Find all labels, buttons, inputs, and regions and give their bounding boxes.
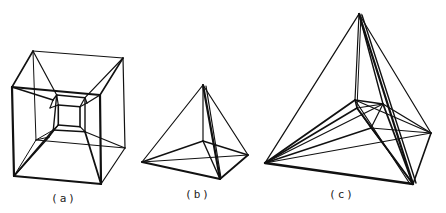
edge-line <box>33 51 123 58</box>
edge-line <box>265 128 371 163</box>
edge-line <box>85 132 125 148</box>
edge-line <box>265 163 413 184</box>
edge-line <box>220 155 248 179</box>
edge-line <box>383 104 413 184</box>
edge-line <box>36 140 125 148</box>
edge-line <box>101 148 125 184</box>
edge-line <box>265 100 355 163</box>
edge-line <box>383 104 431 133</box>
edge-line <box>100 95 101 184</box>
edge-line <box>355 100 410 184</box>
edge-line <box>142 162 220 179</box>
edge-line <box>362 15 416 183</box>
edge-line <box>265 14 359 163</box>
caption-a: (a) <box>51 192 77 205</box>
edge-line <box>359 14 413 184</box>
edge-line <box>142 85 203 162</box>
caption-b: (b) <box>185 188 211 201</box>
edge-line <box>14 137 49 176</box>
edge-line <box>14 140 36 176</box>
edge-line <box>58 125 80 127</box>
edge-line <box>33 51 36 140</box>
edge-line <box>57 95 59 105</box>
caption-c: (c) <box>329 188 355 201</box>
edge-line <box>53 130 85 132</box>
edge-line <box>85 58 123 98</box>
edge-line <box>12 51 33 87</box>
edge-line <box>85 132 101 184</box>
edge-line <box>12 87 14 176</box>
edge-line <box>203 141 248 155</box>
polytope-projections-diagram <box>0 0 446 213</box>
edge-line <box>58 105 80 107</box>
edge-line <box>265 104 383 163</box>
panel-c-simplex <box>265 14 431 184</box>
panel-a-tesseract <box>12 51 125 184</box>
edge-line <box>14 176 101 184</box>
edge-line <box>413 133 431 184</box>
edge-line <box>357 14 361 108</box>
edge-line <box>359 14 431 133</box>
panel-b-simplex <box>142 85 248 179</box>
edge-line <box>355 14 359 100</box>
edge-line <box>87 95 100 103</box>
edge-line <box>359 14 383 104</box>
edge-line <box>57 95 85 98</box>
edge-line <box>53 95 56 130</box>
edge-line <box>100 58 123 95</box>
edge-line <box>123 58 125 148</box>
